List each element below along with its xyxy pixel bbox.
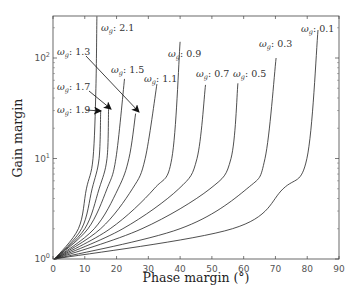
x-tick-label: 70 [270,264,282,274]
x-tick-label: 20 [111,264,123,274]
series-curve-1-3 [55,114,136,259]
series-label: ωg: 0.3 [259,38,292,51]
series-label: ωg: 0.9 [168,48,201,61]
x-tick-label: 10 [79,264,91,274]
series-label: ωg: 1.7 [57,81,90,94]
x-tick-label: 0 [50,264,56,274]
series-label: ωg: 1.5 [111,64,144,77]
x-tick-label: 90 [333,264,345,274]
series-label: ωg: 1.9 [57,104,90,117]
y-axis-label: Gain margin [10,99,25,178]
series-label: ωg: 0.5 [233,68,266,81]
series-curve-1-9 [55,111,101,260]
gain-phase-margin-chart: ωg: 2.1ωg: 1.9ωg: 1.7ωg: 1.5ωg: 1.3ωg: 1… [0,0,360,305]
y-tick-label: 100 [34,252,50,264]
y-tick-label: 102 [34,51,50,63]
x-axis-label: Phase margin (°) [142,270,249,285]
x-tick-label: 80 [301,264,313,274]
arrow-icon [89,91,111,109]
series-label: ωg: 1.3 [57,46,90,59]
series-label: ωg: 1.1 [144,73,177,86]
series-label: ωg: 2.1 [101,22,134,35]
series-label: ωg: 0.7 [196,68,229,81]
y-tick-label: 101 [34,152,50,164]
y-axis-ticks: 100101102 [34,28,339,264]
